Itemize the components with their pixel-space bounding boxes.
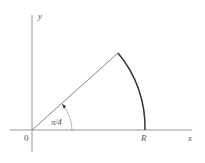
- diagram-svg: y x 0 R π/4: [0, 0, 205, 163]
- radius-point-label: R: [140, 133, 147, 143]
- x-axis-label: x: [187, 133, 192, 143]
- angle-arc: [62, 104, 72, 130]
- y-axis-label: y: [37, 11, 42, 21]
- angle-ray: [32, 53, 118, 130]
- angle-label: π/4: [51, 117, 63, 127]
- sector-arc: [118, 53, 145, 130]
- origin-label: 0: [24, 133, 29, 143]
- polar-sector-diagram: y x 0 R π/4: [0, 0, 205, 163]
